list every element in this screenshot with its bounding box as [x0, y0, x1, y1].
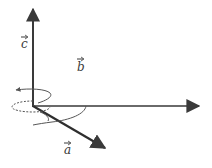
label-c: c: [21, 35, 28, 51]
svg-text:a: a: [64, 143, 71, 157]
svg-text:b: b: [77, 60, 85, 74]
label-b: b: [77, 57, 85, 74]
svg-text:c: c: [21, 37, 28, 51]
label-a: a: [64, 141, 71, 157]
vector-diagram: c b a: [0, 0, 212, 168]
